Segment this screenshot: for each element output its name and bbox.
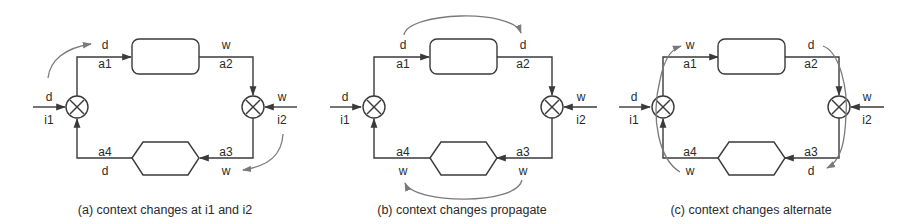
mux-left-icon bbox=[363, 96, 385, 118]
label-i1: i1 bbox=[340, 113, 350, 127]
label-a1-context: d bbox=[400, 38, 407, 52]
context-arrow-propagate-top bbox=[404, 16, 521, 35]
caption-a: (a) context changes at i1 and i2 bbox=[78, 203, 252, 217]
label-i2: i2 bbox=[576, 113, 586, 127]
mux-right-icon bbox=[242, 96, 264, 118]
panel-a: d i1 w i2 d a1 w a2 a3 w a4 d (a) contex… bbox=[33, 38, 297, 217]
label-a2: a2 bbox=[516, 57, 530, 71]
caption-b: (b) context changes propagate bbox=[377, 203, 547, 217]
label-a3-context: w bbox=[518, 164, 528, 178]
label-i1-context: d bbox=[631, 90, 638, 104]
label-a1: a1 bbox=[98, 57, 112, 71]
label-i1: i1 bbox=[44, 113, 54, 127]
label-a4-context: d bbox=[102, 164, 109, 178]
label-a4-context: w bbox=[398, 164, 408, 178]
label-i2-context: w bbox=[576, 90, 586, 104]
label-a4: a4 bbox=[396, 145, 410, 159]
context-arrow-i1 bbox=[48, 44, 91, 78]
label-i2-context: w bbox=[862, 90, 872, 104]
label-i2: i2 bbox=[862, 113, 872, 127]
label-a3-context: w bbox=[221, 164, 231, 178]
label-i2: i2 bbox=[277, 113, 287, 127]
context-arrow-i2 bbox=[243, 134, 283, 170]
label-a1-context: w bbox=[685, 38, 695, 52]
actor-rounded-box bbox=[430, 39, 497, 74]
label-i1: i1 bbox=[629, 113, 639, 127]
label-i2-context: w bbox=[277, 90, 287, 104]
label-a1-context: d bbox=[102, 38, 109, 52]
panel-b: d i1 w i2 d a1 d a2 a3 w a4 w (b) contex… bbox=[330, 16, 597, 217]
label-i1-context: d bbox=[46, 90, 53, 104]
actor-hexagon bbox=[718, 142, 785, 175]
mux-left-icon bbox=[66, 96, 88, 118]
label-a2: a2 bbox=[804, 57, 818, 71]
panel-c: d i1 w i2 w a1 d a2 a3 d a4 w (c) contex… bbox=[619, 38, 884, 217]
label-a2-context: w bbox=[221, 38, 231, 52]
label-a3-context: d bbox=[808, 164, 815, 178]
mux-right-icon bbox=[541, 96, 563, 118]
context-arrow-propagate-bottom bbox=[405, 180, 522, 199]
label-a2-context: d bbox=[808, 38, 815, 52]
context-change-diagram: d i1 w i2 d a1 w a2 a3 w a4 d (a) contex… bbox=[0, 0, 920, 224]
actor-hexagon bbox=[132, 142, 199, 175]
actor-rounded-box bbox=[132, 39, 199, 74]
actor-rounded-box bbox=[718, 39, 785, 74]
label-a3: a3 bbox=[516, 145, 530, 159]
label-a4: a4 bbox=[683, 145, 697, 159]
label-a4: a4 bbox=[98, 145, 112, 159]
mux-left-icon bbox=[652, 96, 674, 118]
label-a2-context: d bbox=[520, 38, 527, 52]
label-a2: a2 bbox=[219, 57, 233, 71]
label-a1: a1 bbox=[396, 57, 410, 71]
label-a3: a3 bbox=[219, 145, 233, 159]
label-i1-context: d bbox=[342, 90, 349, 104]
label-a3: a3 bbox=[804, 145, 818, 159]
label-a1: a1 bbox=[683, 57, 697, 71]
actor-hexagon bbox=[430, 142, 497, 175]
caption-c: (c) context changes alternate bbox=[670, 203, 831, 217]
label-a4-context: w bbox=[685, 164, 695, 178]
